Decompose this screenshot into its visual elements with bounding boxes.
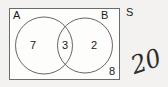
region-outside-value: 8 bbox=[109, 65, 115, 77]
venn-diagram-canvas: A B S 7 3 2 8 20 bbox=[0, 0, 168, 87]
region-a-only-value: 7 bbox=[30, 39, 36, 51]
region-intersection-value: 3 bbox=[62, 39, 68, 51]
set-b-label: B bbox=[101, 9, 108, 21]
universal-set-label: S bbox=[126, 6, 133, 18]
handwritten-annotation-group: 20 bbox=[126, 43, 164, 80]
handwritten-annotation: 20 bbox=[126, 43, 164, 80]
set-a-label: A bbox=[13, 9, 21, 21]
region-b-only-value: 2 bbox=[91, 39, 97, 51]
venn-diagram-figure: A B S 7 3 2 8 20 bbox=[0, 0, 168, 87]
